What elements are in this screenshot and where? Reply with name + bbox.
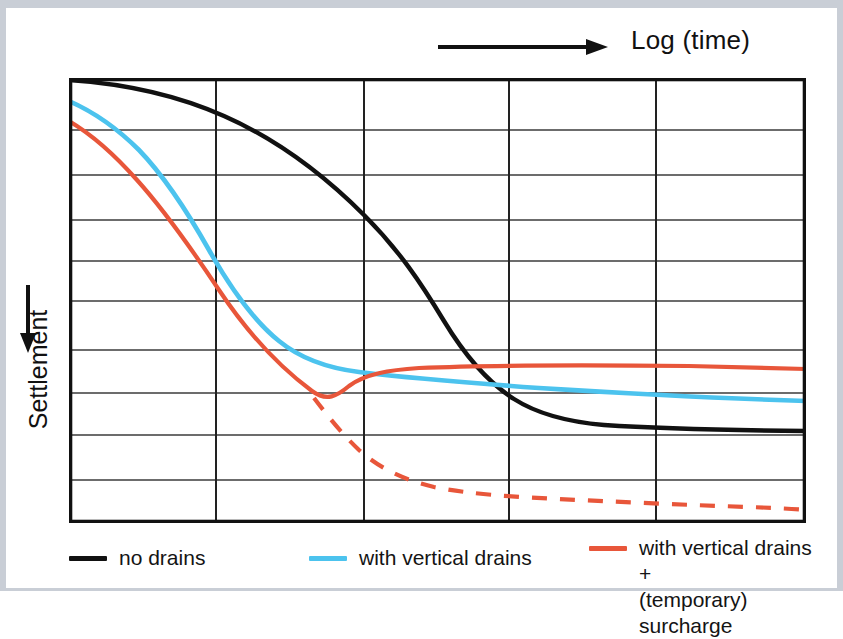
x-axis-label-group: Log (time) — [436, 25, 816, 69]
legend-swatch-vertical-drains — [309, 556, 347, 561]
plot-area — [69, 78, 806, 523]
legend-item-no-drains: no drains — [69, 545, 205, 571]
legend-swatch-surcharge — [589, 546, 627, 551]
plot-svg — [69, 78, 806, 523]
legend-swatch-no-drains — [69, 556, 107, 561]
legend-label-vertical-drains: with vertical drains — [359, 545, 532, 571]
y-axis-label: Settlement — [24, 300, 53, 440]
legend: no drains with vertical drains with vert… — [69, 535, 829, 593]
legend-item-surcharge: with vertical drains + (temporary) surch… — [589, 535, 829, 639]
x-axis-label: Log (time) — [631, 25, 750, 56]
legend-item-vertical-drains: with vertical drains — [309, 545, 532, 571]
figure-sheet: Log (time) Settlement — [6, 8, 837, 588]
settlement-vs-log-time-chart: Log (time) Settlement — [6, 8, 837, 588]
arrow-right-icon — [436, 37, 611, 57]
legend-label-surcharge: with vertical drains + (temporary) surch… — [639, 535, 829, 639]
y-axis-label-group: Settlement — [12, 283, 58, 523]
legend-label-no-drains: no drains — [119, 545, 205, 571]
